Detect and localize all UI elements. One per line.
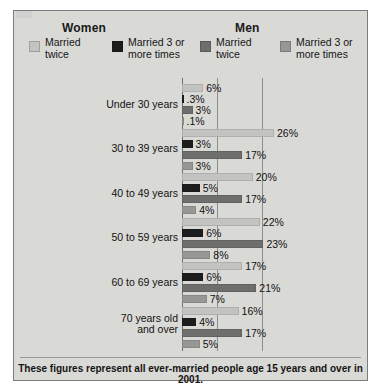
bar-value-label: 21% <box>259 282 280 294</box>
bar-value-label: 23% <box>266 238 287 250</box>
bar-value-label: 17% <box>245 327 266 339</box>
bar <box>182 318 196 326</box>
bar-value-label: 5% <box>203 338 218 350</box>
legend-item-men-twice: Married twice <box>200 37 278 60</box>
legend-label-women-twice: Married twice <box>45 37 81 60</box>
bar-value-label: 22% <box>263 216 284 228</box>
bar-row: 6% <box>182 229 367 237</box>
bar-value-label: 6% <box>206 82 221 94</box>
bar-row: .1% <box>182 117 367 125</box>
group-title-men: Men <box>235 21 260 35</box>
chart-panel: Women Men Married twice Married 3 or mor… <box>13 10 368 381</box>
bar-row: 6% <box>182 273 367 281</box>
legend-label-men-twice: Married twice <box>216 37 252 60</box>
bar <box>182 206 196 214</box>
bar-row: 26% <box>182 129 367 137</box>
bar-row: .3% <box>182 95 367 103</box>
bar-value-label: 8% <box>213 249 228 261</box>
bar-value-label: 20% <box>256 171 277 183</box>
bar-row: 5% <box>182 340 367 348</box>
bar-value-label: 17% <box>245 149 266 161</box>
category-label: Under 30 years <box>106 99 178 111</box>
bar-row: 7% <box>182 295 367 303</box>
bar-row: 6% <box>182 84 367 92</box>
bar-value-label: .1% <box>187 115 205 127</box>
bar <box>182 162 193 170</box>
category-label: 30 to 39 years <box>111 143 178 155</box>
category-label: 50 to 59 years <box>111 232 178 244</box>
bar-row: 5% <box>182 184 367 192</box>
bar <box>182 251 210 259</box>
bar-row: 22% <box>182 218 367 226</box>
bar <box>182 240 263 248</box>
bar-value-label: 26% <box>277 127 298 139</box>
bar <box>182 329 242 337</box>
bar-row: 17% <box>182 329 367 337</box>
bar <box>182 340 200 348</box>
legend-item-men-three-plus: Married 3 or more times <box>280 37 370 60</box>
category-label: 70 years old and over <box>121 313 178 336</box>
legend-swatch-men-twice <box>200 41 211 52</box>
bar-row: 3% <box>182 162 367 170</box>
bar <box>182 95 184 103</box>
legend-item-women-three-plus: Married 3 or more times <box>112 37 200 60</box>
bar-row: 8% <box>182 251 367 259</box>
legend-item-women-twice: Married twice <box>29 37 109 60</box>
footer-divider <box>20 357 361 358</box>
bar <box>182 218 260 226</box>
bar-row: 17% <box>182 195 367 203</box>
bar <box>182 273 203 281</box>
bar-value-label: 4% <box>199 204 214 216</box>
bar <box>182 195 242 203</box>
footnote-text: These figures represent all ever-married… <box>14 363 367 385</box>
bar-row: 20% <box>182 173 367 181</box>
legend-swatch-men-three-plus <box>280 41 291 52</box>
bar-row: 4% <box>182 318 367 326</box>
bar-row: 21% <box>182 284 367 292</box>
group-title-women: Women <box>62 21 106 35</box>
category-label: 60 to 69 years <box>111 277 178 289</box>
bar-row: 16% <box>182 307 367 315</box>
bar <box>182 184 200 192</box>
bar-row: 17% <box>182 151 367 159</box>
legend-swatch-women-twice <box>29 41 40 52</box>
bar-value-label: 6% <box>206 271 221 283</box>
bar <box>182 140 193 148</box>
bar-value-label: 4% <box>199 316 214 328</box>
bar <box>182 151 242 159</box>
bar-row: 3% <box>182 140 367 148</box>
bar-value-label: 3% <box>196 160 211 172</box>
bar <box>182 284 256 292</box>
bar <box>182 229 203 237</box>
legend-label-men-three-plus: Married 3 or more times <box>296 37 353 60</box>
bar <box>182 84 203 92</box>
bar-value-label: 5% <box>203 182 218 194</box>
scan-artifact <box>16 11 32 18</box>
bar-value-label: 7% <box>210 293 225 305</box>
bar <box>182 262 242 270</box>
bar-value-label: 3% <box>196 138 211 150</box>
legend-label-women-three-plus: Married 3 or more times <box>128 37 185 60</box>
bar <box>182 307 239 315</box>
bar-row: 23% <box>182 240 367 248</box>
category-label: 40 to 49 years <box>111 188 178 200</box>
bar-value-label: 17% <box>245 193 266 205</box>
bar-row: 3% <box>182 106 367 114</box>
bar-value-label: 6% <box>206 227 221 239</box>
bar <box>182 117 184 125</box>
legend-swatch-women-three-plus <box>112 41 123 52</box>
bar <box>182 106 193 114</box>
bar-row: 4% <box>182 206 367 214</box>
bar-chart-plot: Under 30 years6%.3%3%.1%30 to 39 years26… <box>14 72 367 353</box>
bar-row: 17% <box>182 262 367 270</box>
bar-value-label: 17% <box>245 260 266 272</box>
bar <box>182 129 274 137</box>
bar-value-label: 16% <box>242 305 263 317</box>
bar <box>182 295 207 303</box>
bar <box>182 173 253 181</box>
